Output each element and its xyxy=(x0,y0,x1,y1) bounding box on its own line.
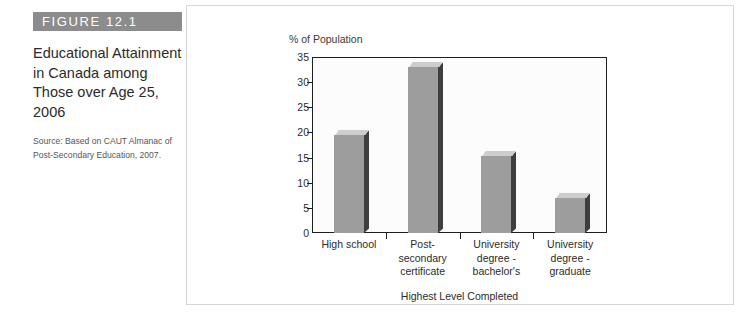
bar-top-face xyxy=(409,62,442,67)
x-axis-category-label: High school xyxy=(312,238,386,252)
x-axis-category-label: University degree - graduate xyxy=(533,238,607,279)
x-axis-title: Highest Level Completed xyxy=(312,290,607,302)
bar-side-face xyxy=(438,63,443,233)
bar-series xyxy=(312,57,607,233)
x-axis-category-label: University degree - bachelor's xyxy=(460,238,534,279)
y-axis-tick-mark xyxy=(307,183,313,184)
bar xyxy=(555,198,585,233)
bar-front-face xyxy=(408,67,438,233)
bar-top-face xyxy=(557,193,590,198)
bar xyxy=(408,67,438,233)
figure-number-banner: FIGURE 12.1 xyxy=(33,12,182,31)
y-axis-tick-mark xyxy=(307,208,313,209)
y-axis-tick-mark xyxy=(307,82,313,83)
y-axis-tick-mark xyxy=(307,107,313,108)
x-axis-tick-mark xyxy=(460,233,461,239)
bar-front-face xyxy=(481,156,511,233)
bar-front-face xyxy=(334,135,364,233)
y-axis-tick-mark xyxy=(307,158,313,159)
y-axis-tick-labels: 05101520253035 xyxy=(283,51,309,239)
figure-title: Educational Attainment in Canada among T… xyxy=(33,44,185,122)
bar-side-face xyxy=(364,130,369,233)
y-axis-tick-label: 35 xyxy=(297,52,309,63)
bar xyxy=(334,135,364,233)
x-axis-category-label: Post- secondary certificate xyxy=(386,238,460,279)
chart-panel: % of Population 05101520253035 High scho… xyxy=(186,5,734,305)
x-axis-tick-mark xyxy=(533,233,534,239)
bar xyxy=(481,156,511,233)
bar-side-face xyxy=(511,152,516,233)
bar-side-face xyxy=(585,193,590,233)
y-axis-tick-mark xyxy=(307,132,313,133)
bar-front-face xyxy=(555,198,585,233)
x-axis-tick-mark xyxy=(386,233,387,239)
y-axis-tick-label: 0 xyxy=(303,228,309,239)
figure-caption-column: FIGURE 12.1 Educational Attainment in Ca… xyxy=(33,12,191,162)
bar-top-face xyxy=(483,151,516,156)
y-axis-title: % of Population xyxy=(289,33,363,45)
figure-source-note: Source: Based on CAUT Almanac of Post-Se… xyxy=(33,135,183,162)
bar-top-face xyxy=(335,130,368,135)
x-axis-category-labels: High schoolPost- secondary certificateUn… xyxy=(312,238,607,296)
figure-container: FIGURE 12.1 Educational Attainment in Ca… xyxy=(0,0,739,316)
